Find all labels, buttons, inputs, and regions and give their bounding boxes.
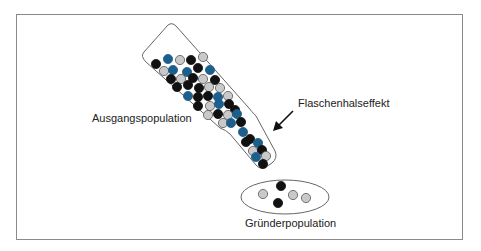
black-dot — [193, 101, 202, 110]
blue-dot — [205, 65, 214, 74]
gray-dot — [159, 66, 168, 75]
gray-dot — [215, 83, 224, 92]
gray-dot — [175, 55, 184, 64]
founder-population-label: Gründerpopulation — [245, 217, 336, 229]
blue-dot — [163, 54, 172, 63]
black-dot — [193, 63, 202, 72]
black-dot — [183, 80, 192, 89]
blue-dot — [168, 65, 177, 74]
gray-dot — [203, 110, 212, 119]
gray-dot — [204, 82, 213, 91]
black-dot — [213, 109, 222, 118]
black-dot — [186, 55, 195, 64]
source-population-label: Ausgangspopulation — [92, 112, 192, 124]
gray-dot — [205, 101, 214, 110]
blue-dot — [214, 99, 223, 108]
gray-dot — [258, 189, 267, 198]
black-dot — [172, 82, 181, 91]
bottleneck-diagram: Ausgangspopulation Flaschenhalseffekt Gr… — [0, 0, 481, 251]
black-dot — [151, 59, 160, 68]
black-dot — [193, 92, 202, 101]
black-dot — [194, 83, 203, 92]
black-dot — [203, 91, 212, 100]
black-dot — [241, 137, 250, 146]
black-dot — [166, 74, 175, 83]
blue-dot — [238, 127, 247, 136]
blue-dot — [226, 118, 235, 127]
gray-dot — [198, 52, 207, 61]
gray-dot — [301, 193, 310, 202]
black-dot — [276, 181, 285, 190]
black-dot — [273, 198, 282, 207]
black-dot — [236, 117, 245, 126]
bottleneck-effect-label: Flaschenhalseffekt — [298, 97, 390, 109]
black-dot — [258, 159, 267, 168]
gray-dot — [198, 74, 207, 83]
gray-dot — [288, 190, 297, 199]
diagram-frame — [17, 15, 463, 240]
blue-dot — [183, 91, 192, 100]
blue-dot — [251, 152, 260, 161]
